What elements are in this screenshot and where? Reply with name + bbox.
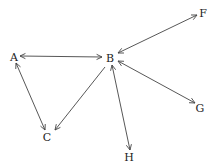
edge-a-b bbox=[20, 53, 102, 59]
edge-line bbox=[55, 67, 105, 130]
node-c-label: C bbox=[43, 131, 51, 144]
nodes-group: ABFGCH bbox=[9, 7, 207, 164]
edge-b-c bbox=[55, 67, 105, 130]
edge-line bbox=[118, 15, 197, 53]
edge-line bbox=[112, 65, 130, 150]
edge-line bbox=[118, 61, 195, 103]
graph-diagram: ABFGCH bbox=[0, 0, 211, 166]
node-b-label: B bbox=[106, 52, 114, 65]
node-h-label: H bbox=[124, 151, 134, 164]
edge-a-c bbox=[16, 63, 45, 130]
edge-b-g bbox=[118, 61, 195, 103]
edge-b-h bbox=[111, 65, 132, 150]
edge-line bbox=[16, 63, 45, 130]
edges-group bbox=[16, 15, 197, 150]
node-a-label: A bbox=[9, 51, 19, 64]
edge-b-f bbox=[118, 15, 197, 53]
node-g-label: G bbox=[196, 102, 205, 115]
node-f-label: F bbox=[199, 7, 207, 20]
graph-canvas: ABFGCH bbox=[0, 0, 211, 166]
edge-line bbox=[20, 56, 102, 57]
